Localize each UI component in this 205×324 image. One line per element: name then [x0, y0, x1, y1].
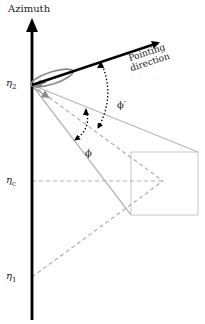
gray-arrow-down — [34, 88, 48, 97]
eta-2-label: η2 — [6, 78, 16, 91]
eta-1-label: η1 — [6, 271, 16, 284]
phi-arc-start-head-icon — [83, 108, 89, 115]
target-box — [131, 152, 198, 215]
eta-2-subscript: 2 — [12, 83, 16, 91]
phi-prime-arc — [98, 62, 108, 128]
azimuth-axis-title: Azimuth — [8, 4, 50, 14]
eta-c-subscript: c — [12, 180, 16, 188]
dashed-line-eta2-center — [32, 85, 163, 181]
eta-1-subscript: 1 — [12, 276, 16, 284]
azimuth-geometry-diagram — [0, 0, 205, 324]
phi-arc — [75, 111, 88, 140]
eta-c-label: ηc — [6, 175, 16, 188]
phi-label: ϕ — [85, 148, 92, 158]
azimuth-axis-arrowhead-icon — [26, 18, 38, 32]
phi-prime-label: ϕ′ — [117, 100, 126, 110]
dashed-line-eta1-center — [32, 181, 163, 277]
